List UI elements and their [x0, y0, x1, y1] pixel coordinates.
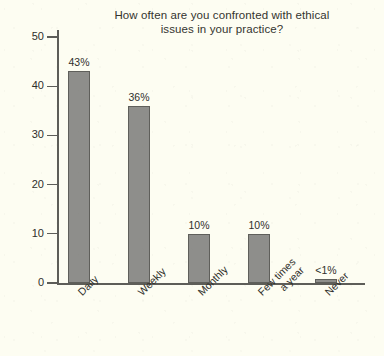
y-axis-tick-label: 10 — [0, 227, 44, 239]
bar[interactable] — [248, 234, 270, 283]
bar[interactable] — [188, 234, 210, 283]
chart-title: How often are you confronted with ethica… — [96, 8, 348, 36]
y-axis-tick — [47, 135, 58, 136]
y-axis-tick — [47, 233, 58, 234]
chart-title-line-1: How often are you confronted with ethica… — [96, 8, 348, 22]
y-axis-tick-label: 30 — [0, 128, 44, 140]
bar[interactable] — [68, 71, 90, 283]
y-axis-tick — [47, 184, 58, 185]
bar-value-label: 36% — [117, 91, 161, 103]
y-axis-tick-label: 0 — [0, 276, 44, 288]
chart-title-line-2: issues in your practice? — [96, 22, 348, 36]
y-axis-tick — [47, 36, 58, 37]
y-axis-tick-label: 20 — [0, 178, 44, 190]
y-axis-tick-label: 40 — [0, 79, 44, 91]
bar-value-label: <1% — [304, 264, 348, 276]
bar-chart: How often are you confronted with ethica… — [0, 0, 384, 356]
bar[interactable] — [128, 106, 150, 283]
bar-value-label: 43% — [57, 56, 101, 68]
y-axis-tick — [47, 86, 58, 87]
y-axis-tick — [47, 282, 58, 283]
bar[interactable] — [315, 279, 337, 283]
bar-value-label: 10% — [237, 219, 281, 231]
y-axis-tick-label: 50 — [0, 30, 44, 42]
bar-value-label: 10% — [177, 219, 221, 231]
